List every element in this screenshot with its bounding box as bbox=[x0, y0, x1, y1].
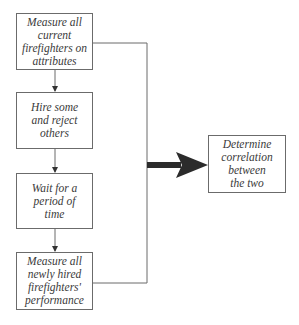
step-label: Measure all newly hired firefighters' pe… bbox=[25, 255, 84, 307]
thick-arrow-to-result bbox=[147, 152, 208, 178]
step-measure-new: Measure all newly hired firefighters' pe… bbox=[16, 252, 93, 310]
step-label: Wait for a period of time bbox=[32, 182, 78, 221]
result-label: Determine correlation between the two bbox=[221, 138, 272, 190]
bracket-connector bbox=[93, 43, 147, 283]
step-label: Hire some and reject others bbox=[31, 101, 78, 140]
step-label: Measure all current firefighters on attr… bbox=[22, 16, 87, 68]
step-wait: Wait for a period of time bbox=[16, 173, 93, 229]
step-measure-current: Measure all current firefighters on attr… bbox=[16, 13, 93, 70]
result-correlation: Determine correlation between the two bbox=[208, 135, 286, 193]
step-hire: Hire some and reject others bbox=[16, 92, 93, 149]
